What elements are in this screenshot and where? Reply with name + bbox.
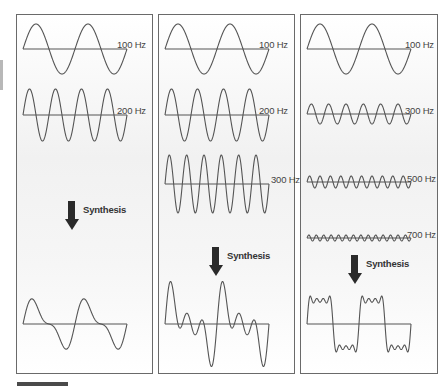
component-label: 300 Hz [405, 105, 434, 116]
down-arrow-icon [208, 247, 223, 276]
synthesis-indicator: Synthesis [208, 247, 270, 276]
component-label: 200 Hz [259, 105, 288, 116]
synthesis-indicator: Synthesis [64, 201, 126, 230]
component-label: 100 Hz [259, 39, 288, 50]
component-label: 100 Hz [405, 39, 434, 50]
panel-100-200-hz: 100 Hz 200 Hz Synthesis [16, 14, 153, 374]
edge-artifact [0, 60, 3, 90]
waveform-canvas [17, 15, 154, 375]
component-label: 300 Hz [271, 174, 300, 185]
down-arrow-icon [347, 255, 362, 284]
component-label: 500 Hz [407, 173, 436, 184]
waveform-canvas [159, 15, 296, 375]
synthesis-label: Synthesis [83, 204, 126, 215]
synthesis-indicator: Synthesis [347, 255, 409, 284]
component-label: 700 Hz [407, 229, 436, 240]
component-label: 200 Hz [117, 105, 146, 116]
down-arrow-icon [64, 201, 79, 230]
panel-100-200-300-hz: 100 Hz 200 Hz 300 Hz Synthesis [158, 14, 295, 374]
caption-bar [17, 382, 68, 386]
sine-wave [307, 176, 411, 188]
component-label: 100 Hz [117, 39, 146, 50]
synthesis-label: Synthesis [366, 258, 409, 269]
panel-odd-harmonics: 100 Hz 300 Hz 500 Hz 700 Hz Synthesis [300, 14, 438, 374]
waveform-canvas [301, 15, 439, 375]
synthesis-label: Synthesis [227, 250, 270, 261]
